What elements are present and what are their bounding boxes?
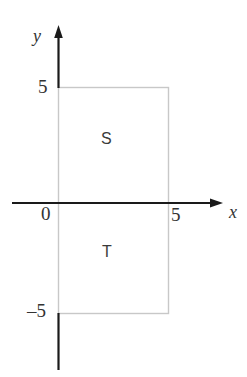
right-arrow-icon xyxy=(210,199,223,208)
region-label-s: S xyxy=(101,131,112,147)
x-axis-label: x xyxy=(229,203,237,221)
y-tick-label-minus-5: –5 xyxy=(27,301,46,320)
y-axis-label: y xyxy=(33,27,41,45)
up-arrow-icon xyxy=(54,25,63,38)
x-tick-label-5: 5 xyxy=(171,205,181,224)
coordinate-plane-figure: y x 5 0 5 –5 S T xyxy=(0,0,247,377)
x-tick-label-0: 0 xyxy=(41,204,51,223)
region-rectangle xyxy=(59,88,169,314)
region-label-t: T xyxy=(102,244,112,260)
y-tick-label-5: 5 xyxy=(38,77,48,96)
